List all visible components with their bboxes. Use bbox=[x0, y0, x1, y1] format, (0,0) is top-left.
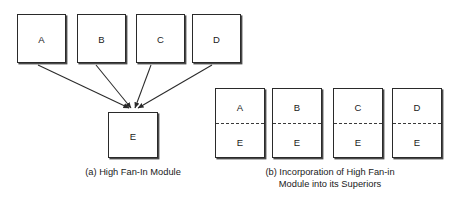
merged-node-b-e-upper-label: B bbox=[273, 103, 321, 113]
node-a: A bbox=[17, 14, 66, 63]
merge-divider bbox=[273, 123, 321, 124]
node-e: E bbox=[108, 112, 158, 158]
merged-node-d-e-lower-label: E bbox=[393, 138, 441, 148]
merge-divider bbox=[393, 123, 441, 124]
node-c: C bbox=[136, 14, 185, 63]
merged-node-a-e-upper-label: A bbox=[216, 103, 264, 113]
merge-divider bbox=[216, 123, 264, 124]
node-a-label: A bbox=[18, 35, 65, 45]
merged-node-a-e: A E bbox=[215, 88, 265, 158]
merged-node-b-e: B E bbox=[272, 88, 322, 158]
edge-b-e bbox=[96, 65, 131, 108]
node-c-label: C bbox=[137, 35, 184, 45]
caption-panel-b: (b) Incorporation of High Fan-in Module … bbox=[214, 166, 446, 190]
node-d-label: D bbox=[193, 35, 240, 45]
figure-container: A B C D E (a) High Fan-In Module A E B E… bbox=[0, 0, 464, 201]
merged-node-c-e-lower-label: E bbox=[334, 138, 382, 148]
caption-panel-a: (a) High Fan-In Module bbox=[20, 166, 246, 178]
merged-node-c-e: C E bbox=[333, 88, 383, 158]
node-b-label: B bbox=[78, 35, 125, 45]
merged-node-b-e-lower-label: E bbox=[273, 138, 321, 148]
node-e-label: E bbox=[109, 132, 157, 142]
edge-a-e bbox=[38, 65, 129, 108]
node-b: B bbox=[77, 14, 126, 63]
merged-node-d-e-upper-label: D bbox=[393, 103, 441, 113]
node-d: D bbox=[192, 14, 241, 63]
merged-node-d-e: D E bbox=[392, 88, 442, 158]
merge-divider bbox=[334, 123, 382, 124]
merged-node-a-e-lower-label: E bbox=[216, 138, 264, 148]
merged-node-c-e-upper-label: C bbox=[334, 103, 382, 113]
